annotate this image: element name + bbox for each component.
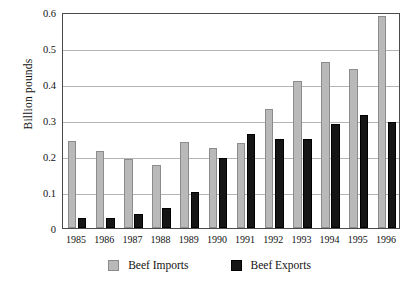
y-axis-tick-label: 0.3 (22, 116, 56, 127)
bar-imports-1995 (349, 69, 358, 228)
bar-imports-1986 (96, 151, 105, 228)
bar-exports-1994 (331, 124, 340, 228)
bar-exports-1991 (247, 134, 256, 228)
legend-label: Beef Imports (128, 259, 188, 271)
y-axis-tick-label: 0.6 (22, 8, 56, 19)
bar-imports-1985 (68, 141, 77, 228)
bars-layer (63, 14, 399, 228)
x-axis-tick-label: 1988 (151, 234, 171, 245)
bar-imports-1992 (265, 109, 274, 228)
plot-area (62, 13, 400, 229)
bar-exports-1986 (106, 218, 115, 228)
x-axis-tick-label: 1994 (320, 234, 340, 245)
x-axis-tick-label: 1989 (179, 234, 199, 245)
y-axis-tick-label: 0.2 (22, 152, 56, 163)
bar-exports-1992 (275, 139, 284, 228)
bar-imports-1993 (293, 81, 302, 228)
legend: Beef Imports Beef Exports (0, 259, 419, 271)
legend-item-beef-imports: Beef Imports (108, 259, 188, 271)
gray-square-swatch (108, 260, 119, 271)
x-axis-tick-label: 1986 (94, 234, 114, 245)
bar-exports-1996 (388, 122, 397, 228)
bar-exports-1993 (303, 139, 312, 228)
bar-imports-1991 (237, 143, 246, 228)
y-axis-tick-label: 0.5 (22, 44, 56, 55)
bar-imports-1990 (209, 148, 218, 228)
bar-imports-1994 (321, 62, 330, 228)
legend-item-beef-exports: Beef Exports (231, 259, 311, 271)
y-axis-tick-label: 0.1 (22, 188, 56, 199)
x-axis-tick-label: 1985 (66, 234, 86, 245)
x-axis-tick-label: 1993 (291, 234, 311, 245)
x-axis-tick-label: 1992 (263, 234, 283, 245)
bar-imports-1987 (124, 159, 133, 228)
x-axis-tick-label: 1991 (235, 234, 255, 245)
bar-exports-1985 (78, 218, 87, 228)
y-axis-tick-label: 0.4 (22, 80, 56, 91)
bar-exports-1990 (219, 158, 228, 228)
x-axis-tick-label: 1987 (122, 234, 142, 245)
x-axis-tick-label: 1996 (376, 234, 396, 245)
bar-exports-1987 (134, 214, 143, 228)
bar-imports-1989 (180, 142, 189, 228)
x-axis-tick-label: 1995 (348, 234, 368, 245)
bar-chart: Billion pounds 0.60.50.40.30.20.10 19851… (0, 0, 419, 285)
legend-label: Beef Exports (251, 259, 311, 271)
x-axis-tick-label: 1990 (207, 234, 227, 245)
bar-exports-1988 (162, 208, 171, 228)
bar-exports-1989 (191, 192, 200, 228)
y-axis-tick-label: 0 (22, 224, 56, 235)
black-square-swatch (231, 260, 242, 271)
bar-imports-1996 (378, 16, 387, 228)
bar-imports-1988 (152, 165, 161, 228)
y-axis-title: Billion pounds (22, 19, 34, 169)
bar-exports-1995 (360, 115, 369, 228)
